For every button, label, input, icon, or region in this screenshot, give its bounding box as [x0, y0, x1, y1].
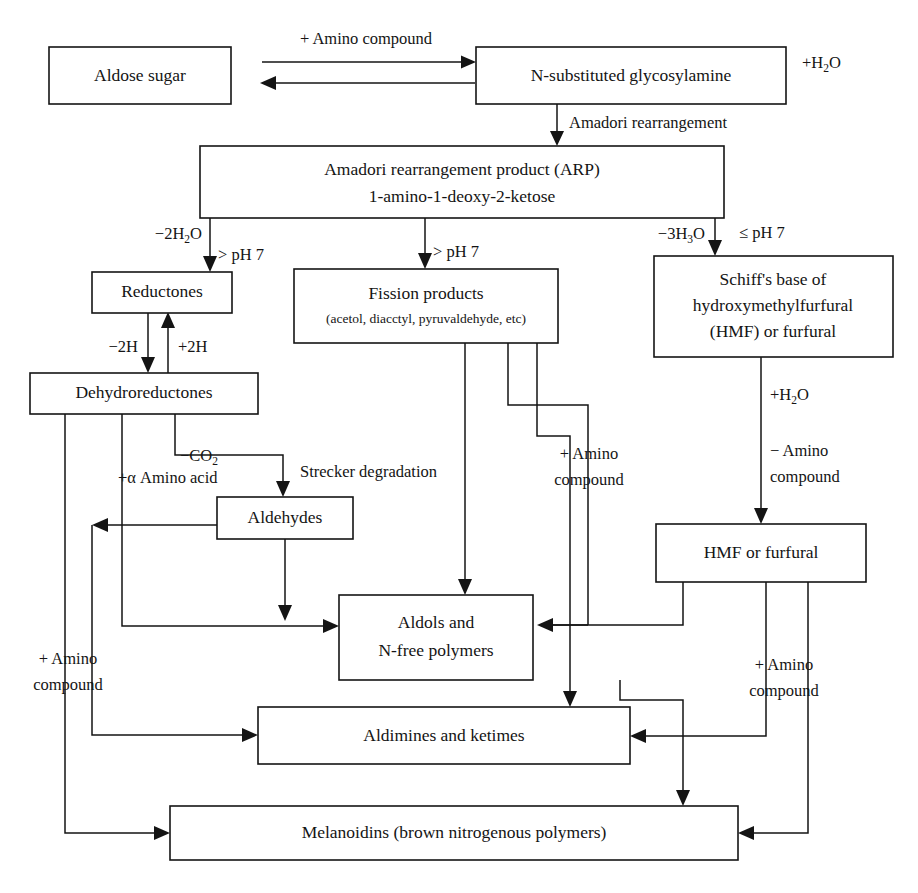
edge-reductones-dehydro-down — [141, 312, 155, 373]
edge-aldose-to-glycosylamine — [260, 56, 476, 91]
edge-label-minus-2h2o: −2H2O — [155, 224, 202, 245]
minus-2h2o-pre: −2H — [155, 224, 185, 243]
box-label-aldimines: Aldimines and ketimes — [363, 725, 525, 745]
edge-label-plus-amino-left-line1: + Amino — [39, 649, 97, 668]
box-aldols: Aldols and N-free polymers — [339, 595, 533, 680]
plus-h2o-schiff-pre: +H — [770, 385, 791, 404]
edge-hmf-to-melanoidins — [738, 582, 808, 840]
edge-label-plus-amino-left-line2: compound — [33, 675, 103, 694]
box-label-schiffs-line1: Schiff's base of — [720, 269, 827, 289]
edge-label-minus-co2: −CO2 — [180, 446, 218, 467]
plus-h2o-schiff-post: O — [797, 385, 809, 404]
svg-text:+H2O: +H2O — [802, 53, 841, 74]
box-hmf-furfural: HMF or furfural — [656, 524, 866, 582]
minus-co2-sub: 2 — [212, 455, 218, 467]
minus-co2-pre: −CO — [180, 446, 212, 465]
minus-2h2o-post: O — [190, 224, 202, 243]
edge-label-minus-2h: −2H — [109, 337, 139, 356]
box-fission-products: Fission products (acetol, diacctyl, pyru… — [294, 269, 558, 343]
box-aldimines: Aldimines and ketimes — [258, 707, 630, 764]
edge-fission-to-aldols — [458, 343, 472, 595]
edge-label-plus-amino-mid-line2: compound — [554, 470, 624, 489]
edge-label-plus-amino-right-line2: compound — [749, 681, 819, 700]
box-label-reductones: Reductones — [121, 281, 203, 301]
edge-label-gt-ph7-left: > pH 7 — [218, 245, 264, 264]
edge-fission-rail-to-aldimines — [537, 343, 577, 707]
edge-label-plus-h2o-top: +H2O — [802, 53, 841, 74]
edge-hmf-to-aldols — [545, 582, 683, 625]
box-label-glycosylamine: N-substituted glycosylamine — [531, 65, 732, 85]
edge-label-plus-amino-mid-line1: + Amino — [560, 444, 618, 463]
box-aldehydes: Aldehydes — [217, 497, 353, 539]
box-melanoidins: Melanoidins (brown nitrogenous polymers) — [170, 806, 738, 860]
edge-hmf-to-aldimines — [630, 582, 766, 743]
svg-text:−3H3O: −3H3O — [658, 224, 705, 245]
svg-text:−2H2O: −2H2O — [155, 224, 202, 245]
svg-text:−CO2: −CO2 — [180, 446, 218, 467]
box-arp: Amadori rearrangement product (ARP) 1-am… — [200, 146, 724, 218]
edge-label-plus-h2o-schiff: +H2O — [770, 385, 809, 406]
box-label-melanoidins: Melanoidins (brown nitrogenous polymers) — [302, 822, 607, 842]
edge-glycosylamine-to-arp — [550, 103, 564, 146]
box-label-schiffs-line3: (HMF) or furfural — [710, 321, 836, 341]
edge-arp-to-fission — [418, 218, 432, 269]
box-label-arp-line1: Amadori rearrangement product (ARP) — [324, 159, 600, 179]
box-glycosylamine: N-substituted glycosylamine — [476, 47, 786, 104]
box-label-fission-line2: (acetol, diacctyl, pyruvaldehyde, etc) — [326, 311, 526, 326]
box-schiffs-base: Schiff's base of hydroxymethylfurfural (… — [654, 256, 893, 357]
edge-label-minus-3h2o: −3H3O — [658, 224, 705, 245]
box-aldose-sugar: Aldose sugar — [49, 47, 231, 104]
box-label-schiffs-line2: hydroxymethylfurfural — [693, 295, 854, 315]
box-reductones: Reductones — [92, 272, 232, 313]
box-label-aldols-line2: N-free polymers — [378, 640, 493, 660]
svg-text:+H2O: +H2O — [770, 385, 809, 406]
edge-label-plus-alpha-amino-acid: +α Amino acid — [118, 468, 218, 487]
edge-label-minus-amino-line1: − Amino — [770, 441, 828, 460]
minus-3h2o-post: O — [693, 224, 705, 243]
edge-dehydro-reductones-up — [161, 312, 175, 373]
edge-label-le-ph7-right: ≤ pH 7 — [739, 223, 785, 242]
minus-3h2o-pre: −3H — [658, 224, 688, 243]
edge-schiffs-to-hmf — [754, 357, 768, 524]
box-dehydroreductones: Dehydroreductones — [30, 373, 258, 414]
box-label-aldehydes: Aldehydes — [248, 507, 323, 527]
edge-label-plus-2h: +2H — [178, 337, 208, 356]
maillard-reaction-diagram: Aldose sugar N-substituted glycosylamine… — [0, 0, 918, 893]
edge-label-amino-compound-top: + Amino compound — [300, 29, 433, 48]
edge-label-plus-amino-right-line1: + Amino — [755, 655, 813, 674]
box-label-aldols-line1: Aldols and — [398, 612, 475, 632]
box-label-dehydroreductones: Dehydroreductones — [75, 382, 212, 402]
edge-aldehydes-to-left-rail — [92, 518, 217, 532]
edge-label-amadori-rearrangement: Amadori rearrangement — [569, 113, 727, 132]
edge-aldehydes-to-aldols — [278, 539, 292, 621]
edge-left-rail-to-aldimines — [92, 525, 258, 742]
edge-label-minus-amino-line2: compound — [770, 467, 840, 486]
plus-h2o-top-pre: +H — [802, 53, 823, 72]
flowchart-canvas: Aldose sugar N-substituted glycosylamine… — [0, 0, 918, 893]
box-label-arp-line2: 1-amino-1-deoxy-2-ketose — [369, 186, 556, 206]
edge-arp-to-schiffs-base — [708, 218, 722, 256]
box-label-aldose-sugar: Aldose sugar — [94, 65, 186, 85]
edge-arp-to-reductones — [203, 218, 217, 272]
edge-label-gt-ph7-mid: > pH 7 — [433, 242, 479, 261]
box-label-hmf-furfural: HMF or furfural — [704, 542, 819, 562]
plus-h2o-top-post: O — [829, 53, 841, 72]
edge-label-strecker-degradation: Strecker degradation — [300, 462, 437, 481]
box-label-fission-line1: Fission products — [368, 283, 483, 303]
